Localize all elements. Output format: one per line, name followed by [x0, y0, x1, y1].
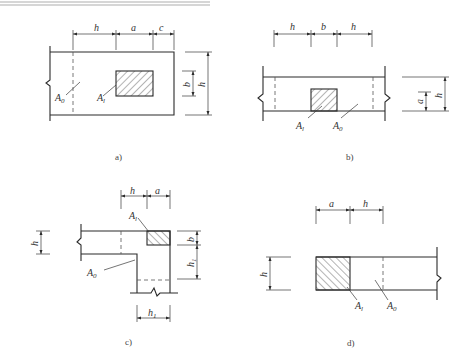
break-line-icon — [437, 247, 441, 300]
dim-label: h — [94, 22, 99, 33]
dim-label: h — [130, 185, 135, 196]
bearing-area — [311, 89, 337, 111]
panel-caption: b) — [346, 152, 354, 162]
dim-label: b — [185, 237, 196, 242]
bearing-area — [116, 71, 153, 96]
area-label-a0: A0 — [386, 300, 397, 313]
leader-line — [347, 287, 357, 300]
area-label-al: Al — [295, 120, 304, 133]
left-dimensions: h — [258, 257, 291, 290]
panel-caption: c) — [125, 337, 132, 347]
break-line-icon — [258, 66, 263, 121]
area-label-al: Al — [128, 210, 137, 223]
left-dimensions: h — [29, 231, 50, 254]
dim-label: b — [321, 21, 326, 32]
dim-label: h — [290, 21, 295, 32]
top-dimensions: h a c — [73, 22, 174, 50]
right-dimensions: b h1 — [177, 231, 201, 279]
dim-label: h — [363, 198, 368, 209]
leader-line — [103, 85, 116, 96]
dim-label: b — [181, 82, 192, 87]
area-label-a0: A0 — [332, 120, 343, 133]
dim-label: a — [131, 22, 136, 33]
panel-caption: d) — [347, 338, 355, 348]
dim-label: a — [414, 99, 425, 104]
bottom-dimensions: h1 — [137, 305, 170, 322]
local-compression-diagram: A0 Al h a c b h a) — [0, 0, 464, 359]
top-dimensions: h b h — [274, 21, 372, 47]
panel-b: Al A0 h b h a h b) — [258, 21, 449, 162]
dim-label: h — [196, 82, 207, 87]
panel-caption: a) — [115, 152, 122, 162]
area-label-a0: A0 — [54, 92, 65, 105]
panel-d: Al A0 a h h d) — [258, 198, 441, 348]
dim-label: h — [433, 93, 444, 98]
dim-label: h — [29, 241, 40, 246]
top-dimensions: h a — [121, 185, 170, 209]
dim-label: a — [155, 185, 160, 196]
break-line-icon — [77, 224, 81, 261]
dim-label: c — [159, 22, 164, 33]
panel-c: Al A0 h a h b h1 — [29, 185, 201, 347]
dim-label: h — [351, 21, 356, 32]
bearing-area — [316, 257, 350, 290]
area-label-a0: A0 — [86, 267, 97, 280]
break-line-icon — [46, 46, 50, 121]
panel-a: A0 Al h a c b h a) — [46, 22, 212, 162]
right-dimensions: a h — [402, 77, 449, 111]
right-dimensions: b h — [181, 52, 212, 115]
member-outline — [50, 52, 174, 115]
bearing-area — [147, 231, 170, 245]
break-line-icon — [385, 66, 390, 121]
area-label-al: Al — [96, 92, 105, 105]
leader-line — [138, 218, 149, 232]
top-dimensions: a h — [316, 198, 383, 224]
leader-line — [104, 260, 135, 270]
dim-label-h1: h1 — [185, 259, 198, 268]
dim-label: a — [329, 198, 334, 209]
dim-label: h — [258, 272, 269, 277]
area-label-al: Al — [354, 300, 363, 313]
